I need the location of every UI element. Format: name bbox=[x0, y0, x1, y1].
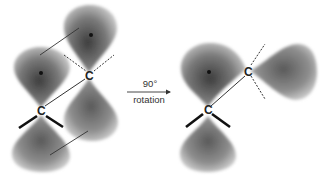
p-orbital-lobe bbox=[12, 115, 70, 172]
atom-label-c1: C bbox=[204, 103, 213, 117]
atom-label-c1: C bbox=[37, 104, 46, 118]
atom-label-c2: C bbox=[244, 65, 253, 79]
arrow-angle-label: 90° bbox=[143, 78, 158, 89]
dashed-bond bbox=[251, 44, 265, 65]
arrow-head-icon bbox=[166, 90, 171, 95]
pi-bond-rotation-diagram: C C 90° rotation C C bbox=[0, 0, 323, 192]
electron-dot bbox=[207, 70, 211, 74]
p-orbital-lobe bbox=[64, 5, 117, 73]
rotation-arrow: 90° rotation bbox=[127, 78, 171, 105]
electron-dot bbox=[89, 33, 93, 37]
right-structure: C C bbox=[180, 43, 317, 172]
atom-label-c2: C bbox=[85, 69, 94, 83]
p-orbital-lobe bbox=[14, 47, 70, 108]
arrow-action-label: rotation bbox=[133, 94, 165, 105]
p-orbital-lobe bbox=[181, 43, 246, 107]
left-structure: C C bbox=[12, 5, 118, 172]
electron-dot bbox=[39, 71, 43, 75]
